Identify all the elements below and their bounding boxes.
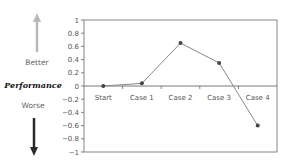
x-axis-ticks [123,86,239,89]
data-point-marker [179,41,183,45]
better-arrow-icon [33,13,41,52]
better-label: Better [25,58,49,67]
y-tick-label: 0.2 [68,69,79,77]
x-tick-label: Case 1 [130,94,154,102]
y-tick-label: 1 [75,17,79,25]
data-point-marker [256,124,260,128]
performance-label: Performance [3,80,62,90]
performance-chart: Better Performance Worse 10.80.60.40.20−… [0,0,292,162]
data-point-marker [101,84,105,88]
y-tick-label: −0.6 [62,122,80,130]
y-tick-label: 0 [75,83,79,91]
x-tick-label: Case 2 [169,94,193,102]
worse-arrow-icon [30,118,38,156]
series-line [103,43,257,126]
x-tick-label: Case 3 [207,94,231,102]
y-tick-label: 0.4 [68,56,80,64]
y-tick-label: 0.8 [68,30,79,38]
worse-label: Worse [21,101,45,110]
data-point-marker [217,61,221,65]
y-tick-label: 0.6 [68,43,80,51]
y-tick-label: −0.4 [62,109,80,117]
x-axis-labels: StartCase 1Case 2Case 3Case 4 [95,94,270,102]
data-point-marker [140,81,144,85]
y-tick-label: −0.8 [62,135,79,143]
y-tick-label: −0.2 [62,96,79,104]
y-tick-label: −1 [69,149,79,157]
x-tick-label: Case 4 [246,94,270,102]
x-tick-label: Start [95,94,112,102]
y-axis: 10.80.60.40.20−0.2−0.4−0.6−0.8−1 [62,17,84,157]
